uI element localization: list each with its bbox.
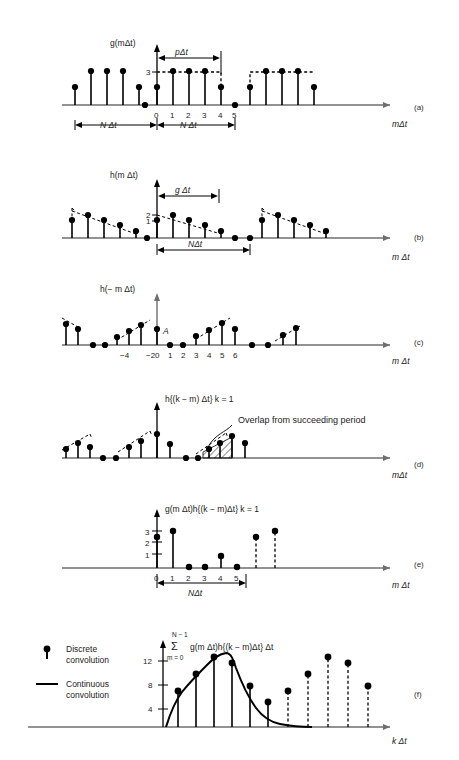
panel-d-annotation: Overlap from succeeding period xyxy=(238,415,366,425)
figure-canvas: g(mΔt) 3 0 1 2 3 4 5 pΔt N Δt N Δt mΔt h… xyxy=(0,0,459,760)
panel-a-function-label: g(mΔt) xyxy=(110,38,136,48)
overlap-hatched-region xyxy=(203,437,232,458)
legend-continuous-line2: convolution xyxy=(66,690,109,700)
panel-d-group xyxy=(62,402,390,461)
panel-a-bracket-n-left: N Δt xyxy=(100,120,117,130)
panel-e-ytick-1: 1 xyxy=(145,551,150,560)
panel-c-xtick-5: 5 xyxy=(220,351,225,360)
panel-b-bracket-n: NΔt xyxy=(188,239,203,249)
panel-label-e: (e) xyxy=(414,560,424,569)
panel-a-xtick-1: 1 xyxy=(170,111,175,120)
panel-a-xtick-2: 2 xyxy=(186,111,191,120)
panel-a-bracket-p: pΔt xyxy=(174,47,188,57)
panel-f-sum-lower: m = 0 xyxy=(167,654,184,661)
panel-c-xtick-m4: −4 xyxy=(120,351,130,360)
panel-d-xaxis-label: mΔt xyxy=(392,470,408,480)
panel-b-group xyxy=(62,179,390,255)
panel-label-a: (a) xyxy=(414,103,424,112)
panel-c-xaxis-label: m Δt xyxy=(392,356,410,366)
panel-c-xtick-0: 0 xyxy=(155,351,160,360)
panel-d-function-label: h{(k − m) Δt} k = 1 xyxy=(165,394,234,404)
legend-discrete-line1: Discrete xyxy=(66,644,97,654)
panel-a-xtick-4: 4 xyxy=(218,111,223,120)
panel-c-xtick-6: 6 xyxy=(233,351,238,360)
panel-e-xtick-4: 4 xyxy=(218,574,223,583)
legend-discrete-line2: convolution xyxy=(66,655,109,665)
panel-a-xtick-0: 0 xyxy=(154,111,159,120)
panel-c-xtick-3: 3 xyxy=(194,351,199,360)
panel-f-group xyxy=(28,640,390,730)
panel-f-xaxis-label: k Δt xyxy=(392,736,407,746)
panel-a-group xyxy=(62,44,390,130)
panel-f-sum-upper: N − 1 xyxy=(172,631,188,638)
panel-c-point-label: A xyxy=(162,326,169,336)
panel-a-xtick-5: 5 xyxy=(232,111,237,120)
panel-f-sum-symbol: Σ xyxy=(171,640,178,652)
panel-e-ytick-2: 2 xyxy=(145,539,150,548)
panel-f-function-label: g(m Δt)h{(k − m)Δt} Δt xyxy=(190,642,274,652)
panel-c-xtick-1: 1 xyxy=(168,351,173,360)
panel-label-b: (b) xyxy=(414,233,424,242)
panel-a-bracket-n-right: N Δt xyxy=(180,120,197,130)
panel-e-xtick-1: 1 xyxy=(170,574,175,583)
panel-b-function-label: h(m Δt) xyxy=(110,170,138,180)
panel-e-xtick-5: 5 xyxy=(234,574,239,583)
panel-e-xtick-2: 2 xyxy=(186,574,191,583)
panel-e-xaxis-label: m Δt xyxy=(392,580,410,590)
panel-a-xaxis-label: mΔt xyxy=(392,119,408,129)
panel-c-xtick-2: 2 xyxy=(181,351,186,360)
panel-e-xtick-3: 3 xyxy=(202,574,207,583)
panel-b-bracket-g: g Δt xyxy=(175,185,191,195)
panel-a-ytick-3: 3 xyxy=(146,68,151,77)
panel-e-function-label: g(m Δt)h{(k − m)Δt} k = 1 xyxy=(165,504,259,514)
legend-continuous-line1: Continuous xyxy=(66,679,109,689)
panel-label-c: (c) xyxy=(414,338,423,347)
panel-c-xtick-4: 4 xyxy=(207,351,212,360)
panel-f-ytick-8: 8 xyxy=(148,681,153,690)
panel-a-xtick-3: 3 xyxy=(202,111,207,120)
figure-discrete-convolution: (a) (b) (c) (d) (e) (f) xyxy=(0,0,459,760)
panel-c-function-label: h(− m Δt) xyxy=(100,284,135,294)
panel-b-xaxis-label: m Δt xyxy=(392,252,410,262)
panel-e-bracket-n: NΔt xyxy=(188,588,203,598)
panel-c-xtick-m2: −2 xyxy=(146,351,156,360)
panel-e-xtick-0: 0 xyxy=(154,574,159,583)
panel-c-group xyxy=(62,293,390,348)
panel-label-d: (d) xyxy=(414,460,424,469)
panel-f-ytick-4: 4 xyxy=(148,705,153,714)
panel-e-group xyxy=(62,509,390,588)
panel-f-ytick-12: 12 xyxy=(143,657,152,666)
panel-b-ytick-1: 1 xyxy=(146,217,151,226)
panel-e-ytick-3: 3 xyxy=(145,528,150,537)
panel-label-f: (f) xyxy=(414,690,422,699)
panel-b-ytick-2: 2 xyxy=(146,211,151,220)
